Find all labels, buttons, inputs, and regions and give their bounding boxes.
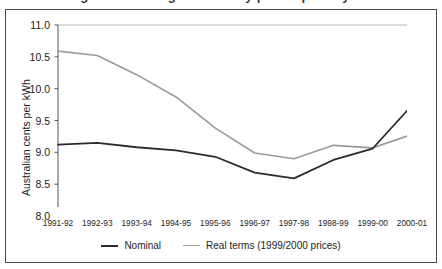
x-tick-label: 1996-97 xyxy=(239,218,269,228)
x-tick-label: 1992-93 xyxy=(82,218,112,228)
legend-item: Nominal xyxy=(101,240,161,251)
legend-line-swatch xyxy=(183,245,200,246)
x-tick-label: 1997-98 xyxy=(279,218,309,228)
legend-label: Nominal xyxy=(124,240,161,251)
x-tick-label: 2000-01 xyxy=(397,218,427,228)
x-tick-label: 1995-96 xyxy=(200,218,230,228)
chart-legend: NominalReal terms (1999/2000 prices) xyxy=(0,240,442,251)
x-tick-label: 1998-99 xyxy=(318,218,348,228)
legend-item: Real terms (1999/2000 prices) xyxy=(183,240,341,251)
series-line-real-terms-1999-2000-prices xyxy=(58,51,407,159)
series-line-nominal xyxy=(58,105,407,178)
x-tick-label: 1993-94 xyxy=(121,218,151,228)
chart-figure: Figure 3: Average electricity prices pai… xyxy=(0,0,442,269)
plot-area xyxy=(53,16,407,207)
x-tick-label: 1999-00 xyxy=(357,218,387,228)
legend-label: Real terms (1999/2000 prices) xyxy=(206,240,341,251)
x-tick-label: 1994-95 xyxy=(161,218,191,228)
legend-line-swatch xyxy=(101,245,118,247)
x-tick-label: 1991-92 xyxy=(43,218,73,228)
plot-svg xyxy=(53,16,407,207)
